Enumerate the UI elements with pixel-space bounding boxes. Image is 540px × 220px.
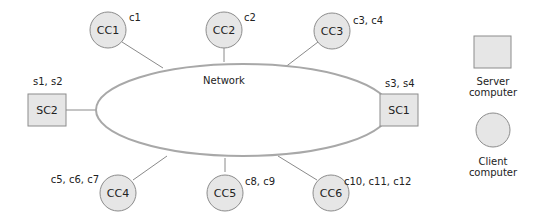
legend-server-line1: Server [477, 76, 511, 87]
link-cc3 [284, 42, 318, 68]
network-label: Network [203, 75, 245, 86]
server-sc2[interactable]: SC2 [28, 94, 66, 126]
server-sc2-label: SC2 [36, 104, 58, 117]
legend-client-line2: computer [469, 167, 518, 178]
client-cc3-items: c3, c4 [353, 15, 383, 26]
client-cc1-items: c1 [129, 12, 141, 23]
client-cc5-items: c8, c9 [245, 176, 275, 187]
client-cc2[interactable]: CC2 [206, 12, 242, 48]
network-diagram: Network SC2 s1, s2 SC1 s3, s4 CC1 c1 CC2… [0, 0, 540, 220]
client-cc5[interactable]: CC5 [207, 175, 243, 211]
server-sc2-items: s1, s2 [33, 76, 63, 87]
client-cc4-items: c5, c6, c7 [51, 174, 99, 185]
link-cc6 [278, 156, 317, 180]
legend-client-icon [476, 113, 510, 147]
client-cc1-label: CC1 [97, 24, 119, 37]
client-cc2-items: c2 [244, 12, 256, 23]
legend-server-line2: computer [469, 87, 518, 98]
client-cc5-label: CC5 [214, 187, 236, 200]
client-cc3-label: CC3 [321, 25, 343, 38]
link-cc1 [122, 42, 163, 68]
legend-client-line1: Client [479, 156, 508, 167]
client-cc4-label: CC4 [107, 187, 129, 200]
client-cc3[interactable]: CC3 [314, 13, 350, 49]
client-cc6-label: CC6 [320, 187, 342, 200]
legend-server-icon [474, 36, 511, 68]
link-cc4 [133, 156, 167, 180]
client-cc1[interactable]: CC1 [90, 12, 126, 48]
server-sc1-items: s3, s4 [385, 78, 415, 89]
client-cc4[interactable]: CC4 [100, 175, 136, 211]
server-sc1[interactable]: SC1 [380, 94, 418, 126]
client-cc6-items: c10, c11, c12 [344, 176, 411, 187]
legend: Server computer Client computer [469, 36, 518, 178]
server-sc1-label: SC1 [388, 104, 410, 117]
client-cc2-label: CC2 [213, 24, 235, 37]
